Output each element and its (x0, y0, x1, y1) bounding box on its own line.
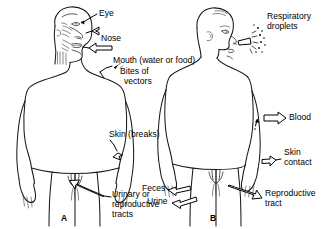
label-skin-contact-line2: contact (284, 158, 312, 168)
label-blood: Blood (289, 113, 311, 123)
label-skin-breaks: Skin (breaks) (109, 130, 160, 140)
head-sagittal-detail (57, 14, 83, 65)
label-nose: Nose (101, 34, 121, 44)
label-reproductive-tract-line2: tract (265, 199, 282, 209)
label-bites-of-vectors-line2: vectors (124, 77, 152, 87)
label-urine: Urine (147, 197, 168, 207)
label-urogenital-line3: tracts (112, 210, 133, 220)
label-eye: Eye (99, 9, 114, 19)
label-feces: Feces (142, 184, 165, 194)
label-mouth: Mouth (water or food) (113, 56, 195, 66)
respiratory-droplets-spray (238, 24, 266, 53)
label-respiratory-droplets-line2: droplets (267, 22, 298, 32)
panel-caption-b: B (210, 213, 216, 223)
panel-caption-a: A (61, 213, 67, 223)
diagram-canvas: Eye Nose Mouth (water or food) Bites of … (0, 0, 332, 229)
